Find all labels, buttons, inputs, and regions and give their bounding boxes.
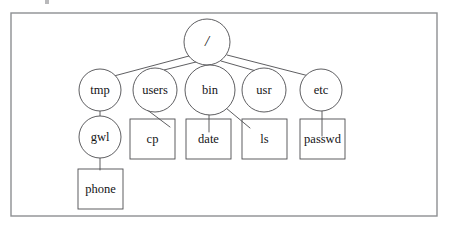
node-phone[interactable]: phone (78, 169, 123, 209)
node-ls[interactable]: ls (242, 119, 287, 159)
bin-node-label: bin (202, 83, 219, 97)
node-root[interactable]: / (184, 19, 230, 65)
edge-root-to-users (164, 62, 196, 70)
filesystem-tree-figure: / tmp users bin usr etc (0, 0, 449, 229)
passwd-node-label: passwd (304, 132, 342, 146)
node-etc[interactable]: etc (300, 69, 342, 111)
ls-node-label: ls (260, 132, 268, 146)
node-date[interactable]: date (186, 119, 231, 159)
node-passwd[interactable]: passwd (300, 119, 345, 159)
node-gwl[interactable]: gwl (79, 116, 121, 158)
edge-bin-to-ls (226, 108, 250, 128)
edge-root-to-usr (221, 61, 256, 71)
usr-node-label: usr (256, 83, 272, 97)
tmp-node-label: tmp (90, 83, 109, 97)
diagram-canvas: / tmp users bin usr etc (0, 0, 449, 229)
scan-artifact-mark (45, 0, 49, 4)
node-usr[interactable]: usr (242, 68, 286, 112)
date-node-label: date (198, 132, 219, 146)
etc-node-label: etc (314, 83, 329, 97)
gwl-node-label: gwl (91, 130, 110, 144)
node-users[interactable]: users (133, 68, 177, 112)
tree-nodes: / tmp users bin usr etc (78, 19, 345, 209)
users-node-label: users (142, 83, 168, 97)
node-tmp[interactable]: tmp (79, 69, 121, 111)
phone-node-label: phone (85, 182, 116, 196)
node-cp[interactable]: cp (130, 119, 175, 159)
cp-node-label: cp (147, 132, 159, 146)
node-bin[interactable]: bin (185, 65, 235, 115)
